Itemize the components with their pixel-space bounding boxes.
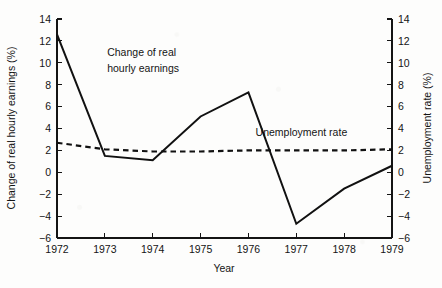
y-axis-left-tick-label: 4 — [45, 122, 51, 134]
y-axis-left-tick-label: 14 — [39, 13, 51, 25]
y-axis-right-tick-label: −6 — [398, 232, 410, 244]
chart-annotations: Change of realhourly earningsUnemploymen… — [107, 46, 347, 138]
x-axis-tick-label: 1976 — [237, 243, 261, 255]
y-axis-right-tick-label: 14 — [398, 13, 410, 25]
x-axis-tick-label: 1975 — [189, 243, 213, 255]
y-axis-left-tick-label: 0 — [45, 166, 51, 178]
x-axis-tick-label: 1974 — [141, 243, 165, 255]
y-axis-left-tick-label: 10 — [39, 57, 51, 69]
y-axis-left-tick-label: 2 — [45, 144, 51, 156]
y-axis-right-tick-label: 8 — [398, 79, 404, 91]
series-unemployment-rate — [57, 143, 392, 152]
chart-figure: 14121086420−2−4−6 14121086420−2−4−6 1972… — [0, 0, 442, 288]
x-axis-tick-label: 1978 — [332, 243, 356, 255]
y-axis-right-tick-label: 6 — [398, 100, 404, 112]
y-axis-right-ticks: 14121086420−2−4−6 — [387, 13, 410, 244]
y-axis-left-tick-label: −2 — [39, 188, 51, 200]
y-axis-right-title: Unemployment rate (%) — [421, 73, 433, 184]
y-axis-left-ticks: 14121086420−2−4−6 — [39, 13, 62, 244]
x-axis-ticks: 19721973197419751976197719781979 — [45, 233, 404, 255]
y-axis-left-tick-label: 6 — [45, 100, 51, 112]
y-axis-right-tick-label: 0 — [398, 166, 404, 178]
chart-annotation-label: hourly earnings — [107, 62, 179, 74]
y-axis-right-tick-label: 10 — [398, 57, 410, 69]
y-axis-right-tick-label: −2 — [398, 188, 410, 200]
y-axis-left-title: Change of real hourly earnings (%) — [5, 47, 17, 210]
line-chart: 14121086420−2−4−6 14121086420−2−4−6 1972… — [0, 0, 442, 288]
y-axis-right-tick-label: 2 — [398, 144, 404, 156]
chart-annotation-label: Change of real — [107, 46, 176, 58]
x-axis-tick-label: 1972 — [45, 243, 69, 255]
y-axis-left-tick-label: 12 — [39, 35, 51, 47]
x-axis-title: Year — [213, 262, 235, 274]
y-axis-right-tick-label: 4 — [398, 122, 404, 134]
x-axis-tick-label: 1979 — [380, 243, 404, 255]
y-axis-right-tick-label: −4 — [398, 210, 410, 222]
y-axis-right-tick-label: 12 — [398, 35, 410, 47]
y-axis-left-tick-label: −4 — [39, 210, 51, 222]
y-axis-left-tick-label: 8 — [45, 79, 51, 91]
x-axis-tick-label: 1973 — [93, 243, 117, 255]
y-axis-left-tick-label: −6 — [39, 232, 51, 244]
chart-annotation-label: Unemployment rate — [256, 126, 348, 138]
x-axis-tick-label: 1977 — [285, 243, 309, 255]
